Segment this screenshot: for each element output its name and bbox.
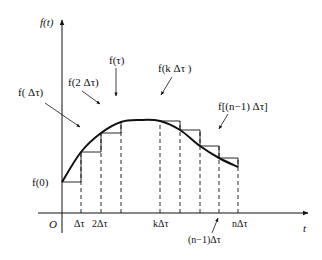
label-f-n1dtau: f[(n−1) Δτ] (218, 100, 268, 113)
callout-arrow-f-n1dtau (219, 114, 228, 129)
y-axis-label: f(t) (40, 16, 54, 29)
tick-label-kdtau: kΔτ (153, 218, 168, 229)
staircase-steps (62, 121, 238, 182)
callout-arrow-f-kdtau (161, 77, 172, 95)
dashed-grid-lines (81, 120, 238, 213)
staircase-diagram: f(t) t O Δτ 2Δτ kΔτ nΔτ (n−1)Δτ f(0) f( … (0, 0, 322, 260)
function-curve (62, 120, 238, 182)
label-f-2dtau: f(2 Δτ) (68, 76, 99, 89)
tick-label-n1dtau: (n−1)Δτ (188, 234, 221, 246)
label-f-kdtau: f(k Δτ ) (158, 62, 192, 75)
tick-label-ndtau: nΔτ (232, 218, 247, 229)
label-f-tau: f(τ) (109, 54, 125, 67)
x-axis-label: t (303, 222, 307, 234)
label-f-dtau: f( Δτ) (18, 86, 44, 99)
label-f0: f(0) (32, 176, 49, 189)
tick-label-2dtau: 2Δτ (92, 218, 107, 229)
origin-label: O (49, 218, 57, 230)
tick-label-dtau: Δτ (74, 218, 84, 229)
callout-arrow-n1dtau (212, 218, 218, 233)
callout-arrow-f-2dtau (82, 91, 100, 104)
